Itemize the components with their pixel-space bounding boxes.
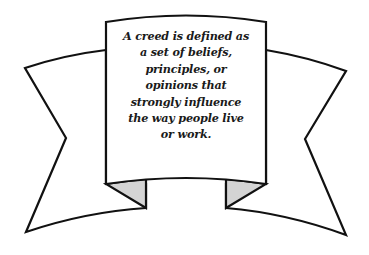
text-line: the way people live: [106, 110, 266, 126]
text-line: opinions that: [106, 77, 266, 93]
text-line: or work.: [106, 126, 266, 142]
text-line: strongly influence: [106, 94, 266, 110]
creed-definition-text: A creed is defined as a set of beliefs, …: [106, 28, 266, 143]
text-line: A creed is defined as: [106, 28, 266, 44]
text-line: a set of beliefs,: [106, 44, 266, 60]
text-line: principles, or: [106, 61, 266, 77]
